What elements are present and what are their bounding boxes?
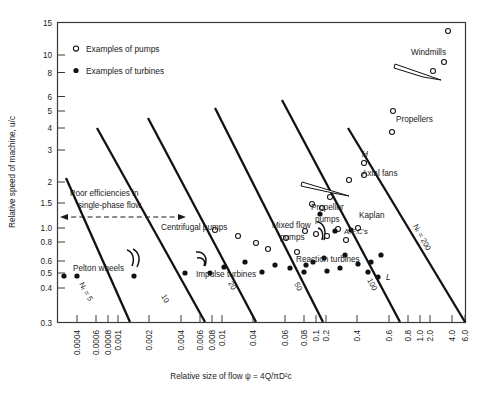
- data-point-pump: [254, 241, 259, 246]
- data-point-turbine: [221, 264, 226, 269]
- legend-label-pumps: Examples of pumps: [86, 44, 160, 54]
- y-tick-label: 3: [47, 146, 52, 155]
- y-axis-title: Relative speed of machine, u/c: [8, 116, 17, 228]
- speed-line-20: [148, 118, 256, 322]
- legend-filled-circle-marker-icon: [73, 68, 78, 73]
- x-tick-label: 0.01: [218, 330, 227, 346]
- speed-line-label-20: 20: [226, 280, 238, 292]
- x-tick-label: 2.0: [426, 330, 435, 342]
- annotation-mixed-flow-line2: pumps: [280, 233, 305, 242]
- data-point-turbine: [365, 269, 370, 274]
- x-tick-label: 6.0: [461, 330, 470, 342]
- annotation-kaplan: Kaplan: [359, 211, 385, 220]
- y-tick-label: 15: [43, 19, 53, 28]
- data-point-turbine: [242, 259, 247, 264]
- x-tick-label: 0.2: [322, 330, 331, 342]
- x-tick-label: 0.06: [281, 330, 290, 346]
- annotation-centrifugal-pumps: Centrifugal pumps: [161, 223, 227, 232]
- data-point-turbine: [301, 269, 306, 274]
- arrow-head-right-icon: [178, 214, 186, 220]
- y-tick-label: 1.5: [41, 199, 53, 208]
- y-tick-label: 0.3: [41, 319, 53, 328]
- data-point-turbine: [182, 270, 187, 275]
- group-annotations: Pelton wheels Centrifugal pumps Impulse …: [73, 48, 446, 282]
- data-point-turbine: [332, 228, 337, 233]
- x-tick-label: 0.04: [249, 330, 258, 346]
- x-axis-ticks: [77, 315, 465, 323]
- speed-line-label-5: Nᵣ = 5: [77, 281, 95, 303]
- data-point-pump: [390, 130, 395, 135]
- arrow-head-left-icon: [60, 214, 68, 220]
- data-point-pump: [266, 247, 271, 252]
- x-tick-label: 0.002: [145, 330, 154, 351]
- annotation-propeller-pumps-line2: pumps: [315, 215, 340, 224]
- x-tick-label: 0.0006: [92, 330, 101, 355]
- data-point-pump: [236, 234, 241, 239]
- x-tick-label: 0.0004: [73, 330, 82, 355]
- speed-line-5: [66, 178, 130, 322]
- annotation-propellers: Propellers: [396, 115, 433, 124]
- x-axis-tick-labels: 0.0004 0.0006 0.0008 0.001 0.002 0.004 0…: [73, 330, 470, 355]
- y-tick-label: 1.0: [41, 224, 53, 233]
- specific-speed-lines: [66, 100, 465, 322]
- data-point-pump: [391, 109, 396, 114]
- x-tick-label: 0.008: [208, 330, 217, 351]
- data-point-pump: [344, 238, 349, 243]
- data-point-turbine: [378, 252, 383, 257]
- data-point-pump: [446, 29, 451, 34]
- data-point-pump: [347, 178, 352, 183]
- annotation-marker-h: H: [362, 150, 368, 159]
- x-tick-label: 0.6: [385, 330, 394, 342]
- y-tick-label: 8: [47, 69, 52, 78]
- poor-efficiency-label-line2: single-phase flow: [78, 201, 141, 210]
- annotation-impulse-turbines: Impulse turbines: [196, 270, 256, 279]
- chart-figure: 15 10 8 6 5 4 3 2 1.5 1.0 0.8 0.6 0.5 0.…: [0, 0, 489, 395]
- annotation-pelton-wheels: Pelton wheels: [73, 264, 124, 273]
- legend-label-turbines: Examples of turbines: [86, 66, 164, 76]
- annotation-reaction-turbines: Reaction turbines: [296, 255, 360, 264]
- x-tick-label: 0.001: [114, 330, 123, 351]
- y-tick-label: 10: [43, 51, 53, 60]
- x-tick-label: 4.0: [448, 330, 457, 342]
- data-point-turbine: [272, 262, 277, 267]
- data-point-turbine: [324, 268, 329, 273]
- machine-selection-chart: 15 10 8 6 5 4 3 2 1.5 1.0 0.8 0.6 0.5 0.…: [0, 0, 489, 395]
- x-tick-label: 0.8: [404, 330, 413, 342]
- x-tick-label: 0.004: [177, 330, 186, 351]
- impulse-runner-icon: [196, 252, 206, 266]
- data-point-turbine: [131, 273, 136, 278]
- data-point-turbine: [61, 273, 66, 278]
- annotation-afcs: A.F.C's: [344, 227, 368, 236]
- poor-efficiency-label-line1: Poor efficiencies in: [70, 189, 139, 198]
- data-point-turbine: [368, 259, 373, 264]
- mixed-flow-vane-icon: [317, 222, 325, 240]
- data-point-turbine: [259, 269, 264, 274]
- annotation-propeller-pumps-line1: Propeller: [311, 203, 344, 212]
- data-point-pump: [314, 232, 319, 237]
- y-tick-label: 5: [47, 107, 52, 116]
- x-tick-label: 0.006: [196, 330, 205, 351]
- data-point-pump: [362, 161, 367, 166]
- data-point-pump: [328, 195, 333, 200]
- annotation-windmills: Windmills: [411, 48, 446, 57]
- x-tick-label: 0.08: [300, 330, 309, 346]
- poor-efficiency-annotation: Poor efficiencies in single-phase flow: [60, 189, 186, 220]
- data-point-turbine: [337, 265, 342, 270]
- data-point-turbine: [74, 273, 79, 278]
- data-point-pump: [442, 60, 447, 65]
- y-tick-label: 0.8: [41, 238, 53, 247]
- data-point-pump: [295, 250, 300, 255]
- y-tick-label: 6: [47, 93, 52, 102]
- x-tick-label: 0.1: [312, 330, 321, 342]
- specific-speed-line-labels: Nᵣ = 5 10 20 50 100 Nᵣ = 200: [77, 223, 433, 305]
- speed-line-label-10: 10: [159, 293, 171, 305]
- y-tick-label: 0.4: [41, 284, 53, 293]
- y-tick-label: 0.5: [41, 269, 53, 278]
- y-tick-label: 4: [47, 124, 52, 133]
- x-tick-label: 0.0008: [104, 330, 113, 355]
- data-point-turbine: [375, 274, 380, 279]
- data-point-turbine: [287, 265, 292, 270]
- annotation-marker-l: L: [386, 273, 391, 282]
- annotation-mixed-flow-line1: Mixed flow: [272, 221, 311, 230]
- annotation-axial-fans: Axial fans: [362, 169, 398, 178]
